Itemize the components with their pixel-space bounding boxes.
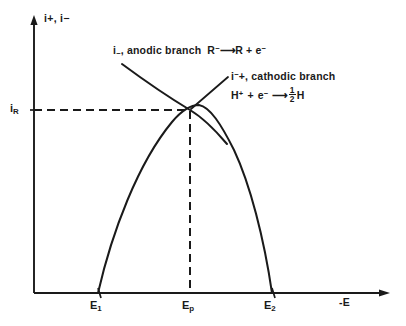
anodic-reaction-arrow: ⟶ <box>220 44 235 56</box>
cathodic-reaction-plus: + <box>247 89 253 101</box>
x-tick-E1-sub: 1 <box>97 304 101 313</box>
cathodic-leader-line <box>191 77 228 109</box>
cathodic-reaction-left-sup: + <box>239 89 244 98</box>
cathodic-branch-curve <box>98 105 272 293</box>
cathodic-reaction-left: H <box>231 89 239 101</box>
x-tick-label-E1: E1 <box>90 300 102 314</box>
x-axis-label: -E <box>339 297 350 308</box>
y-axis-label: i+, i− <box>44 13 70 24</box>
cathodic-annotation-row-1: i−+, cathodic branch <box>231 71 335 82</box>
anodic-annotation-text: , anodic branch <box>121 44 202 56</box>
y-axis <box>30 15 37 293</box>
cathodic-reaction-fraction: 12 <box>289 86 296 104</box>
anodic-reaction-right-sup: − <box>262 44 267 53</box>
cathodic-reaction-product: H <box>297 89 305 101</box>
x-axis <box>34 289 390 296</box>
y-tick-label-iR: iR <box>10 103 19 117</box>
cathodic-annotation-row-2: H++e−⟶12H <box>231 86 335 104</box>
cathodic-annotation-text: +, cathodic branch <box>239 70 336 82</box>
anodic-annotation-row: i−, anodic branchR−⟶R + e− <box>113 45 266 58</box>
y-tick-iR-sub: R <box>13 107 19 116</box>
x-tick-label-E2: E2 <box>264 300 276 314</box>
x-tick-E2-sub: 2 <box>271 304 275 313</box>
anodic-reaction-right: R + e <box>235 44 261 56</box>
anodic-branch-annotation: i−, anodic branchR−⟶R + e− <box>113 45 266 58</box>
x-tick-label-Ep: Ep <box>182 300 194 314</box>
cathodic-reaction-arrow: ⟶ <box>272 89 287 101</box>
cathodic-branch-annotation: i−+, cathodic branch H++e−⟶12H <box>231 71 335 104</box>
x-tick-Ep-sub: p <box>189 304 194 313</box>
anodic-reaction-left: R <box>207 44 215 56</box>
fraction-denominator: 2 <box>289 95 296 103</box>
anodic-branch-curve <box>122 64 227 144</box>
cathodic-reaction-electron-sup: − <box>264 89 269 98</box>
polarization-curve-figure: i+, i− -E iR E1 Ep E2 i−, anodic branchR… <box>0 0 406 326</box>
